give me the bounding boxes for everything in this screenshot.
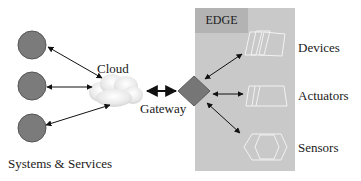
edge-title: EDGE — [195, 8, 248, 33]
sensors-label: Sensors — [298, 141, 338, 154]
iot-edge-diagram: EDGE Cloud Gateway Systems & Services De… — [0, 0, 361, 181]
arrow-system3-cloud — [46, 105, 110, 125]
cloud-icon — [89, 74, 143, 107]
actuators-label: Actuators — [298, 89, 349, 102]
system-node-1 — [18, 31, 46, 59]
arrow-system1-cloud — [48, 47, 102, 78]
system-node-2 — [18, 72, 46, 100]
cloud-label: Cloud — [97, 62, 129, 75]
system-nodes — [18, 31, 46, 142]
systems-services-label: Systems & Services — [8, 157, 112, 170]
gateway-label: Gateway — [140, 102, 186, 115]
system-node-3 — [18, 114, 46, 142]
devices-label: Devices — [298, 41, 340, 54]
